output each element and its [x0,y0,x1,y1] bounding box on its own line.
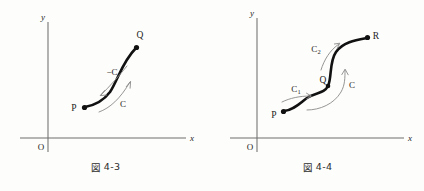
origin-label: O [247,142,254,152]
y-axis-label: y [40,12,45,22]
point-P-label: P [271,110,276,120]
curve-label-c: C [349,80,355,90]
figure-4-4-caption: 図4-4 [212,160,424,174]
point-R-label: R [373,31,380,41]
curve-label-minus-c: −C [106,67,117,77]
figure-4-3-caption: 図4-3 [0,160,212,174]
point-P-label: P [71,103,76,113]
point-Q-label: Q [320,75,327,85]
curve-PQ [85,48,136,107]
figure-4-4-canvas: y x O P Q R C1 C2 C [212,0,424,170]
orientation-arc-c2 [321,44,339,70]
curve-label-c1-subscript: 1 [297,88,300,95]
figure-4-3: y x O P Q −C C 図4-3 [0,0,212,191]
curve-label-c2-subscript: 2 [317,48,320,55]
curve-label-c2: C2 [311,44,320,55]
point-R-dot [365,35,370,40]
figure-4-3-canvas: y x O P Q −C C [0,0,212,170]
caption-kanji: 図 [91,160,101,174]
point-P-dot [281,109,286,114]
point-P-dot [82,105,87,110]
curve-label-c: C [120,99,126,109]
point-Q-dot [134,45,139,50]
caption-number: 4-3 [104,161,121,172]
caption-number: 4-4 [316,161,333,172]
x-axis-label: x [189,133,194,143]
figure-4-4: y x O P Q R C1 C2 C [212,0,424,191]
x-axis-label: x [407,133,412,143]
y-axis-label: y [249,8,254,18]
figure-page: y x O P Q −C C 図4-3 [0,0,424,191]
curve-label-c1: C1 [291,84,300,95]
point-Q-label: Q [137,30,144,40]
caption-kanji: 図 [303,160,313,174]
origin-label: O [38,142,45,152]
